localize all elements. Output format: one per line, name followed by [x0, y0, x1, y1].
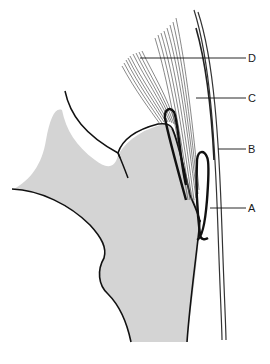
- bursa-a: [197, 152, 209, 240]
- label-b: B: [248, 144, 255, 155]
- outer-sheath-line-3: [196, 28, 214, 160]
- outer-sheath-line-2: [198, 12, 226, 340]
- anatomy-diagram: [0, 0, 270, 364]
- label-c: C: [248, 93, 256, 104]
- label-a: A: [248, 203, 255, 214]
- label-d: D: [248, 53, 256, 64]
